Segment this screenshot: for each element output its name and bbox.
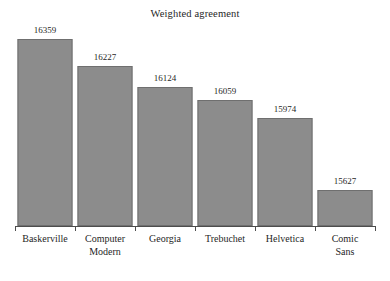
x-axis-tick-label: Baskerville (15, 233, 75, 246)
chart-title: Weighted agreement (0, 8, 390, 19)
x-axis-tick (195, 226, 196, 231)
bar-slot: 16359 (15, 24, 75, 226)
bar-value-label: 16059 (214, 87, 237, 96)
bar-value-label: 16124 (154, 74, 177, 83)
bar (258, 118, 313, 226)
bar-slot: 16227 (75, 24, 135, 226)
bar (18, 39, 73, 226)
x-axis-tick-label: Helvetica (255, 233, 315, 246)
x-axis-tick-label: ComicSans (315, 233, 375, 258)
bar-value-label: 16227 (94, 53, 117, 62)
x-axis-tick-label: Georgia (135, 233, 195, 246)
x-axis-tick-label: ComputerModern (75, 233, 135, 258)
bar (318, 190, 373, 226)
x-axis-tick (255, 226, 256, 231)
x-axis-tick (75, 226, 76, 231)
plot-area: 163591622716124160591597415627 (15, 24, 375, 226)
bar-slot: 15974 (255, 24, 315, 226)
bar-chart: Weighted agreement 163591622716124160591… (0, 0, 390, 281)
x-axis-tick-label: Trebuchet (195, 233, 255, 246)
bar-slot: 16124 (135, 24, 195, 226)
bar-slot: 16059 (195, 24, 255, 226)
x-axis-tick (375, 226, 376, 231)
bar (78, 66, 133, 226)
bar-value-label: 16359 (34, 26, 57, 35)
x-axis-category-labels: BaskervilleComputerModernGeorgiaTrebuche… (15, 233, 375, 279)
bar (198, 100, 253, 226)
bar (138, 87, 193, 226)
bar-value-label: 15627 (334, 177, 357, 186)
x-axis-tick (315, 226, 316, 231)
x-axis-tick (15, 226, 16, 231)
bar-value-label: 15974 (274, 105, 297, 114)
x-axis-tick (135, 226, 136, 231)
bar-slot: 15627 (315, 24, 375, 226)
